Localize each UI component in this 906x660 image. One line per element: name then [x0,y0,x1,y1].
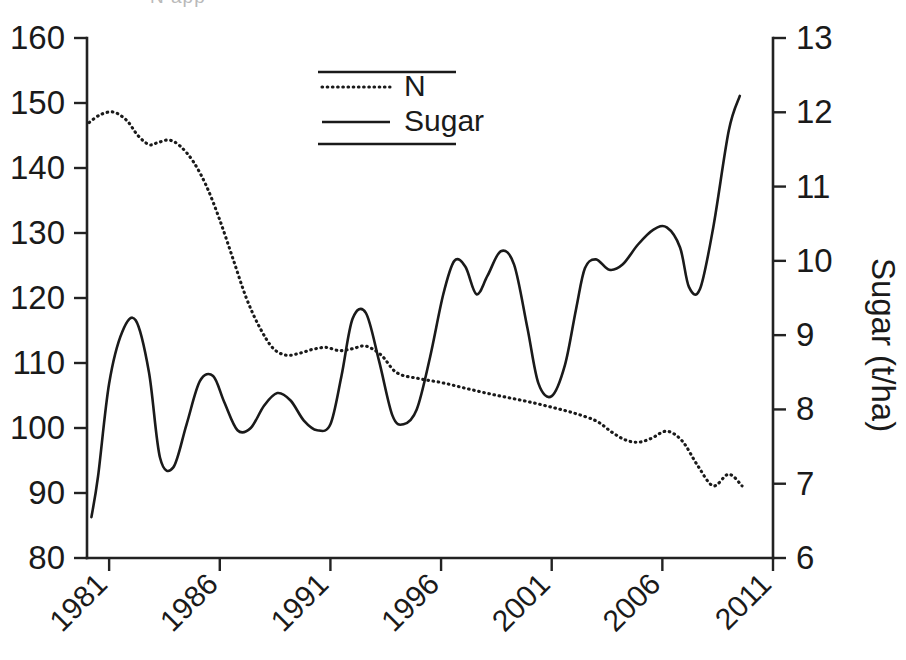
right-axis: 678910111213 [773,19,833,576]
left-axis-tick-label: 120 [10,279,65,316]
x-axis-tick-label: 1996 [375,567,446,638]
x-axis-tick-label: 1991 [264,567,335,638]
right-axis-tick-label: 7 [796,465,814,502]
chart-legend: NSugar [318,69,484,144]
left-axis-tick-label: 160 [10,19,65,56]
right-axis-tick-label: 13 [796,19,833,56]
left-axis-tick-label: 150 [10,84,65,121]
right-axis-tick-label: 9 [796,316,814,353]
left-axis-tick-label: 100 [10,409,65,446]
x-axis-tick-label: 2001 [485,567,556,638]
left-axis-tick-label: 110 [12,344,65,381]
right-axis-tick-label: 6 [796,539,814,576]
left-axis-tick-label: 130 [10,214,65,251]
series-line-sugar [91,96,739,517]
series-group [89,96,742,517]
left-axis-tick-label: 80 [28,539,65,576]
right-axis-tick-label: 11 [796,168,830,205]
legend-label-sugar: Sugar [404,104,484,137]
chart-figure: N app 8090100110120130140150160 67891011… [0,0,906,660]
right-axis-tick-label: 12 [796,93,833,130]
clipped-top-text: N app [150,0,206,8]
series-line-n [89,112,742,486]
x-axis: 1981198619911996200120062011 [43,558,777,637]
right-axis-title-text: Sugar (t/ha) [865,258,902,432]
legend-label-n: N [404,69,426,102]
left-axis-tick-label: 90 [28,474,65,511]
x-axis-tick-label: 1986 [153,567,224,638]
x-axis-tick-label: 2011 [708,567,777,636]
left-axis: 8090100110120130140150160 [10,19,87,576]
left-axis-tick-label: 140 [10,149,65,186]
right-axis-tick-label: 8 [796,390,814,427]
right-axis-title: Sugar (t/ha) [865,258,902,432]
line-chart-canvas: 8090100110120130140150160 678910111213 1… [0,0,906,660]
right-axis-tick-label: 10 [796,242,833,279]
x-axis-tick-label: 1981 [43,567,114,638]
x-axis-tick-label: 2006 [596,567,667,638]
